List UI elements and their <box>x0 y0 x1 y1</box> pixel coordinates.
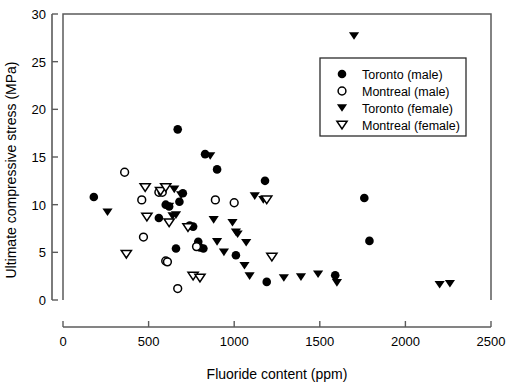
marker-filled-circle <box>90 193 99 202</box>
marker-open-circle <box>174 285 182 293</box>
marker-filled-triangle <box>241 239 251 247</box>
marker-open-triangle <box>267 253 277 261</box>
marker-filled-triangle <box>233 230 243 238</box>
marker-filled-triangle <box>250 192 260 200</box>
marker-filled-circle <box>360 194 369 203</box>
marker-filled-triangle <box>227 219 237 227</box>
y-tick-label: 5 <box>39 245 46 260</box>
marker-filled-triangle <box>332 279 342 287</box>
marker-open-circle <box>230 199 238 207</box>
marker-filled-circle <box>261 177 270 186</box>
marker-filled-circle <box>173 125 182 134</box>
marker-open-circle <box>211 196 219 204</box>
y-tick-label: 15 <box>32 150 46 165</box>
x-axis-title: Fluoride content (ppm) <box>207 366 348 382</box>
marker-filled-triangle <box>349 32 359 40</box>
x-tick-label: 1500 <box>305 334 334 349</box>
marker-filled-triangle <box>239 262 249 270</box>
marker-filled-triangle <box>209 216 219 224</box>
marker-filled-triangle <box>219 249 229 257</box>
marker-open-triangle <box>195 274 205 282</box>
marker-open-triangle <box>142 213 152 221</box>
chart-canvas: 05001000150020002500051015202530 Toronto… <box>0 0 513 391</box>
marker-open-triangle <box>121 250 131 258</box>
marker-filled-triangle <box>245 272 255 280</box>
legend-label: Toronto (female) <box>362 102 453 116</box>
marker-filled-circle <box>172 244 181 253</box>
marker-filled-triangle <box>313 270 323 278</box>
marker-open-circle <box>121 168 129 176</box>
marker-filled-triangle <box>445 280 455 288</box>
marker-open-circle <box>193 243 201 251</box>
marker-filled-circle <box>338 70 347 79</box>
marker-open-circle <box>140 233 148 241</box>
marker-filled-circle <box>232 251 241 260</box>
y-tick-label: 30 <box>32 7 46 22</box>
y-tick-label: 20 <box>32 102 46 117</box>
marker-filled-circle <box>331 271 340 280</box>
scatter-plot-figure: 05001000150020002500051015202530 Toronto… <box>0 0 513 391</box>
marker-filled-triangle <box>296 273 306 281</box>
x-tick-label: 2500 <box>477 334 506 349</box>
x-tick-label: 0 <box>59 334 66 349</box>
marker-filled-triangle <box>279 274 289 282</box>
marker-open-triangle <box>164 219 174 227</box>
legend-label: Montreal (female) <box>362 119 460 133</box>
legend-label: Montreal (male) <box>362 85 450 99</box>
y-tick-label: 0 <box>39 293 46 308</box>
legend-label: Toronto (male) <box>362 68 443 82</box>
marker-filled-triangle <box>212 238 222 246</box>
chart-legend: Toronto (male)Montreal (male)Toronto (fe… <box>320 58 466 136</box>
marker-open-circle <box>338 87 346 95</box>
series-montreal-male <box>121 168 238 292</box>
y-tick-label: 10 <box>32 198 46 213</box>
marker-filled-circle <box>155 214 164 223</box>
marker-filled-circle <box>365 237 374 246</box>
marker-filled-triangle <box>435 281 445 289</box>
marker-filled-triangle <box>102 208 112 216</box>
x-tick-label: 500 <box>138 334 160 349</box>
marker-open-circle <box>138 196 146 204</box>
x-tick-label: 1000 <box>220 334 249 349</box>
marker-open-circle <box>164 258 172 266</box>
x-tick-label: 2000 <box>391 334 420 349</box>
marker-filled-circle <box>175 198 184 207</box>
y-axis-title: Ultimate compressive stress (MPa) <box>3 61 19 278</box>
y-tick-label: 25 <box>32 55 46 70</box>
marker-filled-circle <box>262 278 271 287</box>
marker-filled-circle <box>213 165 222 174</box>
marker-open-triangle <box>140 184 150 192</box>
